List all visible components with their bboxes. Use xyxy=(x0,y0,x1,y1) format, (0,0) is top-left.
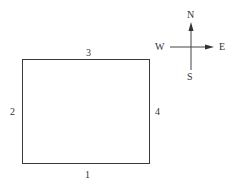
compass-south-label: S xyxy=(187,72,193,82)
compass-icon xyxy=(0,0,235,189)
compass-west-label: W xyxy=(155,42,164,52)
compass-east-label: E xyxy=(219,42,225,52)
compass-north-label: N xyxy=(187,10,194,20)
